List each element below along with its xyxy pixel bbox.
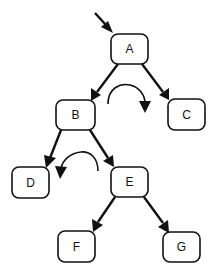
node-e: E — [111, 167, 148, 197]
edge-a-b — [91, 64, 118, 101]
node-b: B — [56, 100, 95, 130]
node-f-label: F — [73, 240, 80, 254]
counterclockwise-arrow — [55, 152, 98, 179]
edge-b-d — [44, 130, 61, 168]
clockwise-arrow — [108, 85, 151, 113]
node-g: G — [163, 232, 200, 262]
node-f: F — [58, 231, 95, 262]
node-a: A — [111, 34, 148, 64]
node-g-label: G — [177, 240, 186, 254]
edge-b-e — [90, 130, 114, 167]
node-c-label: C — [182, 108, 191, 122]
edge-e-g — [144, 197, 169, 233]
tree-diagram: A B C D E F G — [0, 0, 215, 277]
edge-e-f — [92, 197, 115, 232]
node-e-label: E — [125, 175, 133, 189]
entry-arrow — [95, 13, 113, 33]
edge-a-c — [142, 64, 169, 100]
node-d-label: D — [26, 176, 35, 190]
node-b-label: B — [71, 108, 79, 122]
node-c: C — [168, 99, 205, 130]
node-d: D — [12, 167, 49, 198]
node-a-label: A — [125, 42, 133, 56]
